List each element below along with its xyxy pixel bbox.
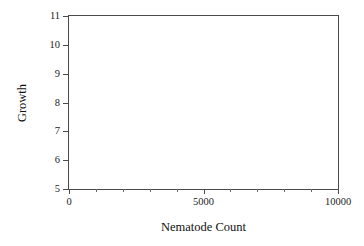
x-minor-tick-mark [96,189,97,192]
y-tick-mark [63,160,69,161]
y-axis-title: Growth [16,83,29,121]
y-tick-mark [63,103,69,104]
y-tick-label: 7 [55,126,60,137]
x-minor-tick-mark [311,189,312,192]
x-tick-mark [204,189,205,194]
y-tick-label: 9 [55,68,60,79]
x-minor-tick-mark [257,189,258,192]
x-minor-tick-mark [123,189,124,192]
x-minor-tick-mark [284,189,285,192]
y-tick-label: 5 [55,184,60,195]
y-tick-mark [63,74,69,75]
y-axis-title-container: Growth [14,15,30,190]
x-minor-tick-mark [177,189,178,192]
plot-area [69,16,338,189]
y-tick-label: 10 [50,40,61,51]
y-tick-mark [63,131,69,132]
y-tick-mark [63,16,69,17]
y-tick-label: 6 [55,155,60,166]
x-tick-label: 10000 [325,197,351,208]
x-tick-label: 0 [66,197,71,208]
chart-figure: Growth 5678910110500010000 Nematode Coun… [0,0,364,246]
x-tick-mark [338,189,339,194]
x-tick-label: 5000 [193,197,214,208]
x-axis-title: Nematode Count [68,221,339,234]
y-tick-label: 8 [55,97,60,108]
y-tick-mark [63,45,69,46]
plot-frame: 5678910110500010000 [68,15,339,190]
y-tick-label: 11 [50,11,60,22]
x-minor-tick-mark [230,189,231,192]
x-minor-tick-mark [150,189,151,192]
x-tick-mark [69,189,70,194]
